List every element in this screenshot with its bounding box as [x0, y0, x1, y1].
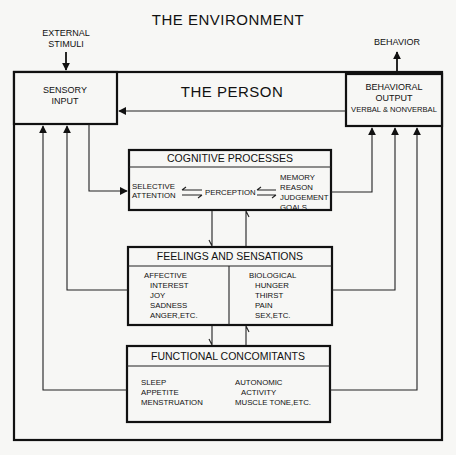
affective-item: SADNESS [150, 301, 187, 310]
input-to-cognitive-arrow [89, 124, 127, 191]
biological-item: PAIN [255, 301, 273, 310]
selective-attention-line1: SELECTIVE [132, 182, 175, 191]
person-title: THE PERSON [181, 83, 284, 100]
functional-left-item: MENSTRUATION [141, 398, 203, 407]
functional-to-output-arrow [330, 128, 417, 390]
biological-item: THIRST [255, 291, 283, 300]
higher-process-memory: MEMORY [280, 173, 316, 182]
functional-title: FUNCTIONAL CONCOMITANTS [151, 350, 305, 362]
functional-left-item: SLEEP [141, 378, 166, 387]
feelings-to-output-arrow [332, 128, 395, 290]
behavior-label: BEHAVIOR [374, 37, 420, 47]
cognitive-to-output-arrow [331, 128, 372, 192]
higher-process-reason: REASON [280, 183, 313, 192]
higher-process-goals: GOALS [280, 203, 307, 212]
affective-item: JOY [150, 291, 166, 300]
selective-attention-line2: ATTENTION [132, 191, 176, 200]
external-stimuli-label-line1: EXTERNAL [42, 28, 90, 38]
functional-right-item: AUTONOMIC [235, 378, 283, 387]
perception-label: PERCEPTION [205, 188, 256, 197]
behavioral-output-line1: BEHAVIORAL [366, 82, 423, 92]
feelings-to-input-arrow [67, 126, 128, 290]
environment-person-diagram: THE ENVIRONMENT EXTERNAL STIMULI BEHAVIO… [0, 0, 456, 455]
cognitive-feelings-exchange-icon [209, 211, 249, 246]
functional-to-input-arrow [43, 126, 127, 390]
affective-item: INTEREST [150, 281, 189, 290]
behavioral-output-line2: OUTPUT [376, 93, 414, 103]
biological-item: SEX,ETC. [255, 311, 291, 320]
external-stimuli-label-line2: STIMULI [48, 39, 84, 49]
cognitive-title: COGNITIVE PROCESSES [167, 152, 293, 164]
functional-right-item: MUSCLE TONE,ETC. [235, 398, 311, 407]
functional-right-item: ACTIVITY [241, 388, 277, 397]
sensory-input-line2: INPUT [52, 96, 80, 106]
higher-process-judgement: JUDGEMENT [280, 193, 329, 202]
biological-item: HUNGER [255, 281, 289, 290]
biological-heading: BIOLOGICAL [249, 271, 297, 280]
feelings-functional-exchange-icon [209, 326, 249, 345]
affective-heading: AFFECTIVE [144, 271, 187, 280]
feelings-title: FEELINGS AND SENSATIONS [157, 250, 303, 262]
environment-title: THE ENVIRONMENT [152, 11, 305, 28]
behavioral-output-line3: VERBAL & NONVERBAL [351, 105, 437, 114]
sensory-input-line1: SENSORY [43, 85, 87, 95]
functional-left-item: APPETITE [141, 388, 179, 397]
affective-item: ANGER,ETC. [150, 311, 198, 320]
